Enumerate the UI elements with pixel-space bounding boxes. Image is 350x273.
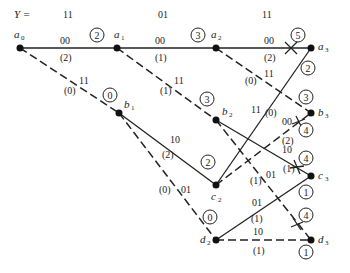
svg-text:(1): (1): [155, 52, 167, 64]
svg-text:a: a: [318, 40, 324, 52]
svg-text:(1): (1): [250, 175, 262, 187]
svg-text:c: c: [211, 190, 216, 202]
svg-text:(0): (0): [64, 85, 76, 97]
svg-text:2: 2: [95, 30, 100, 41]
node-b1: b1: [116, 98, 136, 117]
path-metric-b3-eliminated: 4: [299, 123, 313, 137]
svg-text:2: 2: [218, 196, 222, 204]
svg-text:(0): (0): [159, 184, 171, 196]
svg-text:5: 5: [296, 30, 301, 41]
svg-text:11: 11: [174, 75, 184, 86]
svg-text:c: c: [318, 169, 323, 181]
svg-text:1: 1: [131, 104, 135, 112]
node-a3: a3: [308, 40, 330, 54]
svg-text:3: 3: [325, 175, 329, 183]
svg-text:2: 2: [306, 63, 311, 74]
svg-text:3: 3: [325, 112, 329, 120]
svg-text:d: d: [200, 233, 206, 245]
svg-text:b: b: [222, 105, 228, 117]
branch-c2-b3: 00 (2): [216, 113, 311, 185]
svg-text:00: 00: [155, 35, 165, 46]
svg-text:00: 00: [264, 35, 274, 46]
svg-text:00: 00: [60, 35, 70, 46]
node-d3: d3: [308, 233, 330, 247]
svg-text:4: 4: [304, 153, 309, 164]
svg-text:2: 2: [207, 239, 211, 247]
svg-text:1: 1: [304, 187, 309, 198]
svg-text:a: a: [114, 28, 120, 40]
svg-text:11: 11: [79, 75, 89, 86]
path-metric-d3: 1: [299, 245, 313, 259]
path-metric-b2: 3: [200, 92, 214, 106]
path-metric-c3-eliminated: 4: [299, 151, 313, 165]
svg-text:(2): (2): [60, 52, 72, 64]
received-symbol-2: 01: [158, 9, 168, 20]
svg-text:(1): (1): [253, 245, 265, 257]
svg-text:2: 2: [229, 111, 233, 119]
path-metric-b3: 3: [299, 90, 313, 104]
svg-text:01: 01: [252, 197, 262, 208]
path-metric-a1: 2: [90, 28, 104, 42]
svg-text:4: 4: [304, 125, 309, 136]
svg-text:10: 10: [170, 134, 180, 145]
svg-text:(1): (1): [251, 213, 263, 225]
svg-text:00: 00: [282, 116, 292, 127]
node-b3: b3: [308, 106, 330, 120]
svg-text:3: 3: [325, 46, 329, 54]
received-symbol-3: 11: [262, 9, 272, 20]
svg-text:0: 0: [208, 212, 213, 223]
svg-text:10: 10: [253, 226, 263, 237]
path-metric-c3: 1: [299, 185, 313, 199]
svg-text:d: d: [318, 233, 324, 245]
svg-text:(2): (2): [282, 135, 294, 147]
svg-text:0: 0: [108, 90, 113, 101]
svg-text:a: a: [211, 28, 217, 40]
svg-text:11: 11: [251, 104, 261, 115]
path-metric-a3: 2: [301, 61, 315, 75]
svg-text:1: 1: [121, 34, 125, 42]
svg-text:3: 3: [196, 30, 201, 41]
svg-text:3: 3: [205, 94, 210, 105]
svg-text:a: a: [14, 28, 20, 40]
branch-b1-c2: 10 (2): [119, 113, 216, 185]
svg-text:2: 2: [218, 34, 222, 42]
svg-text:(0): (0): [245, 75, 257, 87]
branch-b2-c3: 10 (1): [216, 120, 311, 176]
node-d2: d2: [200, 233, 220, 247]
svg-text:(2): (2): [264, 52, 276, 64]
received-label: Y =: [14, 8, 30, 20]
svg-text:b: b: [318, 106, 324, 118]
path-metric-a2: 3: [191, 28, 205, 42]
path-metric-d2: 0: [203, 210, 217, 224]
svg-text:01: 01: [266, 169, 276, 180]
svg-text:4: 4: [304, 210, 309, 221]
svg-text:01: 01: [181, 184, 191, 195]
svg-text:3: 3: [304, 92, 309, 103]
path-metric-b1: 0: [103, 88, 117, 102]
svg-text:(2): (2): [162, 149, 174, 161]
svg-text:b: b: [124, 98, 130, 110]
branch-d2-c3: 01 (1): [216, 176, 311, 240]
received-symbol-1: 11: [63, 9, 73, 20]
svg-text:1: 1: [304, 247, 309, 258]
node-a0: a0: [14, 28, 25, 52]
path-metric-a3-eliminated: 5: [291, 28, 305, 42]
svg-text:0: 0: [21, 34, 25, 42]
node-c2: c2: [211, 182, 222, 205]
branch-b2-d3: 01 (1): [216, 120, 311, 240]
svg-text:(1): (1): [160, 85, 172, 97]
svg-text:(1): (1): [283, 163, 295, 175]
node-c3: c3: [308, 169, 330, 183]
svg-text:3: 3: [325, 239, 329, 247]
svg-text:(0): (0): [265, 107, 277, 119]
node-b2: b2: [213, 105, 234, 124]
trellis-diagram: Y = 11 01 11 00 (2) 11 (0) 00 (1) 11 (1)…: [0, 0, 350, 273]
branch-b1-d2: 01 (0): [119, 113, 216, 240]
svg-text:2: 2: [206, 157, 211, 168]
svg-text:11: 11: [264, 68, 274, 79]
path-metric-d3-eliminated: 4: [299, 208, 313, 222]
path-metric-c2: 2: [201, 155, 215, 169]
